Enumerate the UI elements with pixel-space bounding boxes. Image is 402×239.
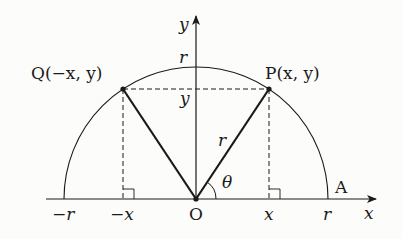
right-angle-marker-p <box>269 189 280 199</box>
x-tick-neg-r: −r <box>52 204 75 224</box>
point-q-label: Q(−x, y) <box>31 63 102 83</box>
y-axis-label: y <box>178 14 189 34</box>
segment-op-label-r: r <box>218 130 227 150</box>
x-tick-r: r <box>323 204 332 224</box>
y-axis-tick-y: y <box>179 88 190 108</box>
x-tick-neg-x: −x <box>110 204 134 224</box>
angle-theta-arc <box>207 182 216 199</box>
point-a-label: A <box>334 177 348 197</box>
origin-dot <box>193 196 198 201</box>
x-axis-label: x <box>364 203 374 223</box>
semicircle-diagram: y x r y Q(−x, y) P(x, y) r θ A O −r −x x… <box>0 0 402 239</box>
point-q-dot <box>120 86 125 91</box>
angle-theta-label: θ <box>222 172 232 192</box>
right-angle-marker-q <box>123 189 134 199</box>
origin-label: O <box>189 204 203 224</box>
diagram-canvas: y x r y Q(−x, y) P(x, y) r θ A O −r −x x… <box>0 0 402 239</box>
x-tick-x: x <box>264 204 274 224</box>
point-p-dot <box>266 86 271 91</box>
y-axis-tick-r: r <box>179 47 188 67</box>
point-p-label: P(x, y) <box>265 63 320 83</box>
